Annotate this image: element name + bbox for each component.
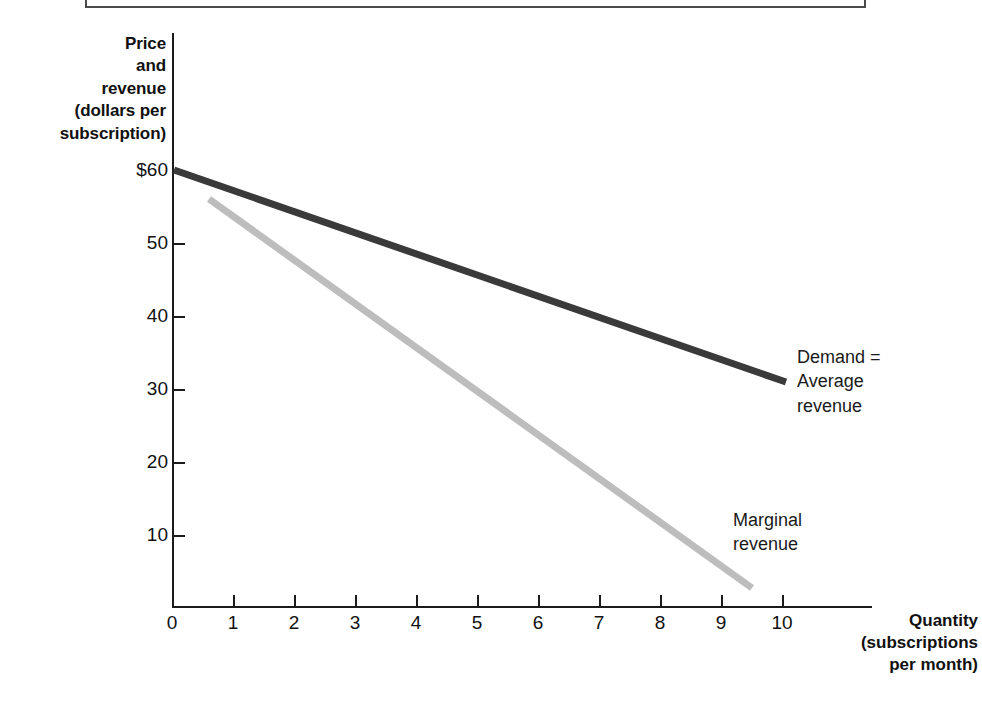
chart-plot-area: $60 50 40 30 20 10 0 1 2 3 4 5 6 7 8 9 1… [0,0,982,714]
demand-curve-label: Demand = Average revenue [797,345,881,418]
demand-line [174,170,786,382]
figure-canvas: $60 50 40 30 20 10 0 1 2 3 4 5 6 7 8 9 1… [0,0,982,714]
y-axis-title: Price and revenue (dollars per subscript… [0,33,166,145]
x-axis-title: Quantity (subscriptions per month) [762,610,978,676]
marginal-revenue-curve-label: Marginal revenue [733,508,802,557]
marginal-revenue-line [209,199,752,588]
